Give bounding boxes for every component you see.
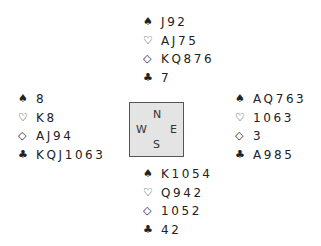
west-spades: ♠8 <box>18 90 106 109</box>
compass-south: S <box>153 138 160 151</box>
spade-icon: ♠ <box>235 90 253 109</box>
club-icon: ♣ <box>235 146 253 165</box>
compass-west: W <box>136 123 147 136</box>
compass-north: N <box>153 108 161 121</box>
east-diamonds: ◇3 <box>235 127 306 146</box>
diamond-icon: ◇ <box>18 127 36 146</box>
compass-box: N W E S <box>129 102 184 157</box>
east-hand: ♠AQ763 ♡1063 ◇3 ♣A985 <box>235 90 306 164</box>
south-hearts: ♡Q942 <box>143 184 212 203</box>
club-icon: ♣ <box>143 69 161 88</box>
diamond-icon: ◇ <box>235 127 253 146</box>
south-clubs: ♣42 <box>143 221 212 240</box>
east-hearts: ♡1063 <box>235 109 306 128</box>
west-diamonds: ◇AJ94 <box>18 127 106 146</box>
heart-icon: ♡ <box>143 32 161 51</box>
north-spades: ♠J92 <box>143 13 214 32</box>
west-hand: ♠8 ♡K8 ◇AJ94 ♣KQJ1063 <box>18 90 106 164</box>
west-clubs: ♣KQJ1063 <box>18 146 106 165</box>
club-icon: ♣ <box>143 221 161 240</box>
south-diamonds: ◇1052 <box>143 202 212 221</box>
west-hearts: ♡K8 <box>18 109 106 128</box>
diamond-icon: ◇ <box>143 50 161 69</box>
compass-east: E <box>170 123 177 136</box>
north-hearts: ♡AJ75 <box>143 32 214 51</box>
east-clubs: ♣A985 <box>235 146 306 165</box>
north-diamonds: ◇KQ876 <box>143 50 214 69</box>
north-clubs: ♣7 <box>143 69 214 88</box>
east-spades: ♠AQ763 <box>235 90 306 109</box>
spade-icon: ♠ <box>143 13 161 32</box>
heart-icon: ♡ <box>143 184 161 203</box>
south-spades: ♠K1054 <box>143 165 212 184</box>
club-icon: ♣ <box>18 146 36 165</box>
north-hand: ♠J92 ♡AJ75 ◇KQ876 ♣7 <box>143 13 214 87</box>
heart-icon: ♡ <box>18 109 36 128</box>
spade-icon: ♠ <box>143 165 161 184</box>
south-hand: ♠K1054 ♡Q942 ◇1052 ♣42 <box>143 165 212 239</box>
diamond-icon: ◇ <box>143 202 161 221</box>
spade-icon: ♠ <box>18 90 36 109</box>
heart-icon: ♡ <box>235 109 253 128</box>
